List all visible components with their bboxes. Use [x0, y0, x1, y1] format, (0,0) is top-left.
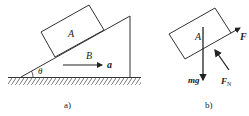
force-fn-arrow [215, 50, 229, 70]
caption-a: a) [64, 100, 71, 110]
physics-diagram: A B θ a a) A F mg FN b) [0, 0, 249, 116]
acceleration-label: a [107, 59, 112, 70]
angle-arc [32, 71, 34, 77]
ground-hatch [8, 78, 141, 85]
block-a-label: A [67, 28, 75, 39]
force-f-label: F [239, 31, 247, 42]
figure-b: A F mg FN b) [169, 8, 247, 110]
block-a-label-b: A [194, 31, 202, 42]
force-fn-label: FN [220, 76, 232, 87]
figure-a: A B θ a a) [8, 5, 141, 110]
force-f-arrow [231, 28, 240, 33]
force-mg-label: mg [188, 75, 200, 85]
angle-label: θ [38, 66, 43, 76]
wedge-b-label: B [86, 50, 92, 61]
caption-b: b) [205, 100, 213, 110]
